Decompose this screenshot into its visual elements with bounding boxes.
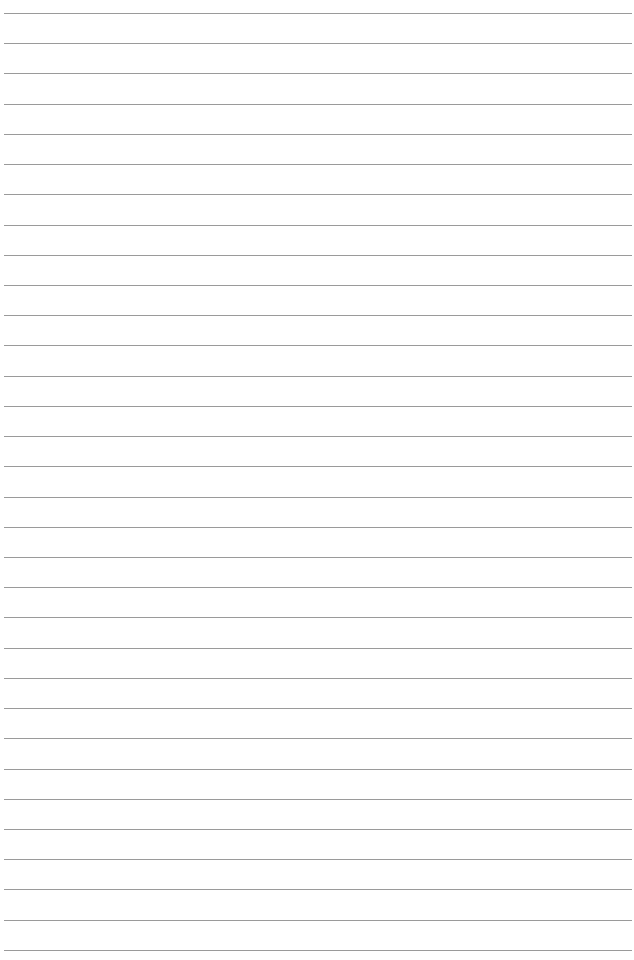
ruled-line — [4, 436, 632, 437]
ruled-line — [4, 406, 632, 407]
lined-paper-page — [0, 0, 634, 960]
ruled-line — [4, 829, 632, 830]
ruled-line — [4, 527, 632, 528]
ruled-line — [4, 497, 632, 498]
ruled-line — [4, 13, 632, 14]
ruled-line — [4, 164, 632, 165]
ruled-line — [4, 617, 632, 618]
ruled-line — [4, 587, 632, 588]
ruled-line — [4, 345, 632, 346]
ruled-line — [4, 466, 632, 467]
ruled-line — [4, 225, 632, 226]
ruled-line — [4, 43, 632, 44]
ruled-line — [4, 708, 632, 709]
ruled-line — [4, 285, 632, 286]
ruled-line — [4, 738, 632, 739]
ruled-line — [4, 134, 632, 135]
ruled-line — [4, 73, 632, 74]
ruled-line — [4, 255, 632, 256]
ruled-line — [4, 950, 632, 951]
ruled-line — [4, 315, 632, 316]
ruled-line — [4, 557, 632, 558]
ruled-line — [4, 648, 632, 649]
ruled-line — [4, 194, 632, 195]
ruled-line — [4, 678, 632, 679]
ruled-line — [4, 889, 632, 890]
ruled-line — [4, 920, 632, 921]
ruled-line — [4, 799, 632, 800]
ruled-line — [4, 376, 632, 377]
ruled-line — [4, 104, 632, 105]
ruled-line — [4, 859, 632, 860]
ruled-line — [4, 769, 632, 770]
